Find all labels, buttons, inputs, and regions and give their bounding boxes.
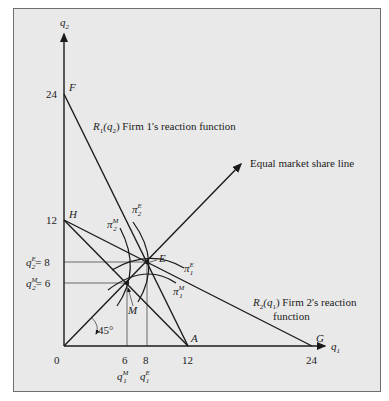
firm2-reaction-label: R2(q1) Firm 2's reaction <box>252 296 357 311</box>
q1-axis-label: q1 <box>331 340 340 355</box>
point-G-label: G <box>316 332 324 344</box>
equal-share-label: Equal market share line <box>250 157 354 169</box>
equal-market-share-line <box>64 164 241 346</box>
point-H-label: H <box>68 208 78 220</box>
point-M <box>125 281 129 285</box>
point-M-label: M <box>127 304 138 316</box>
x-tick-8: 8 <box>143 354 149 366</box>
pi2M-label: πM2 <box>107 217 120 233</box>
x-tick-12: 12 <box>182 354 193 366</box>
y-tick-12: 12 <box>46 214 57 226</box>
e-pointer-arrow <box>150 260 157 262</box>
reaction-function-diagram: q2 q1 0 6 8 12 24 24 12 qE2= 8 qM2= 6 qM… <box>0 0 389 401</box>
y-tick-24: 24 <box>46 88 58 100</box>
q2M-label: qM2= 6 <box>26 276 51 292</box>
q1E-label: qE1 <box>140 369 151 385</box>
isoprofit-pi2M <box>117 228 130 306</box>
pi2E-label: πE2 <box>132 202 143 218</box>
isoprofit-pi1M <box>108 274 176 290</box>
x-tick-24: 24 <box>306 354 318 366</box>
angle-arc-icon <box>92 318 97 334</box>
pi1E-label: πE1 <box>184 261 195 277</box>
point-E <box>145 260 149 264</box>
q2-axis-label: q2 <box>60 16 70 31</box>
angle-45-label: 45° <box>98 324 113 336</box>
pi1M-label: πM1 <box>173 284 186 300</box>
origin-label: 0 <box>54 354 60 366</box>
firm2-reaction-label-line2: function <box>273 310 310 322</box>
q2E-label: qE2= 8 <box>26 255 50 271</box>
firm1-reaction-label: R1(q2) Firm 1's reaction function <box>92 120 236 135</box>
point-A-label: A <box>190 332 198 344</box>
point-E-label: E <box>158 252 166 264</box>
x-tick-6: 6 <box>122 354 128 366</box>
point-F-label: F <box>68 81 76 93</box>
q1M-label: qM1 <box>117 369 130 385</box>
